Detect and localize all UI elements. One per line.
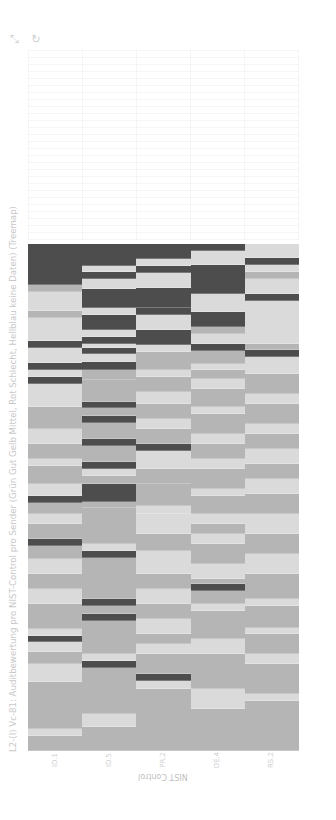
heatmap-cell[interactable] — [28, 559, 82, 574]
heatmap-cell[interactable] — [28, 429, 82, 444]
heatmap-cell[interactable] — [82, 661, 136, 668]
heatmap-cell[interactable] — [245, 404, 299, 424]
heatmap-cell[interactable] — [82, 606, 136, 614]
heatmap-cell[interactable] — [136, 345, 190, 352]
heatmap-cell[interactable] — [136, 273, 190, 288]
heatmap-cell[interactable] — [136, 469, 190, 484]
heatmap-cell[interactable] — [136, 370, 190, 377]
heatmap-cell[interactable] — [191, 709, 245, 751]
heatmap-cell[interactable] — [191, 294, 245, 312]
heatmap-cell[interactable] — [136, 451, 190, 469]
heatmap-cell[interactable] — [245, 350, 299, 357]
heatmap-cell[interactable] — [191, 564, 245, 579]
heatmap-cell[interactable] — [136, 352, 190, 370]
heatmap-cell[interactable] — [245, 244, 299, 258]
heatmap-cell[interactable] — [136, 514, 190, 534]
heatmap-cell[interactable] — [191, 584, 245, 591]
heatmap-cell[interactable] — [191, 251, 245, 265]
heatmap-cell[interactable] — [136, 404, 190, 419]
heatmap-cell[interactable] — [82, 654, 136, 661]
heatmap-cell[interactable] — [82, 621, 136, 654]
heatmap-cell[interactable] — [82, 558, 136, 599]
heatmap-cell[interactable] — [245, 294, 299, 301]
heatmap-cell[interactable] — [191, 591, 245, 604]
heatmap-cell[interactable] — [28, 459, 82, 466]
heatmap-cell[interactable] — [136, 681, 190, 689]
heatmap-cell[interactable] — [82, 279, 136, 289]
heatmap-plot-area[interactable] — [28, 244, 299, 751]
heatmap-cell[interactable] — [245, 634, 299, 654]
heatmap-cell[interactable] — [136, 689, 190, 751]
heatmap-cell[interactable] — [136, 259, 190, 266]
heatmap-cell[interactable] — [136, 506, 190, 514]
heatmap-cell[interactable] — [191, 334, 245, 344]
heatmap-cell[interactable] — [28, 604, 82, 629]
heatmap-cell[interactable] — [82, 272, 136, 279]
heatmap-cell[interactable] — [245, 424, 299, 434]
heatmap-cell[interactable] — [136, 266, 190, 273]
heatmap-cell[interactable] — [245, 599, 299, 606]
heatmap-cell[interactable] — [82, 446, 136, 462]
heatmap-cell[interactable] — [28, 484, 82, 496]
heatmap-cell[interactable] — [82, 476, 136, 484]
heatmap-cell[interactable] — [82, 289, 136, 308]
heatmap-cell[interactable] — [191, 414, 245, 434]
heatmap-cell[interactable] — [245, 701, 299, 751]
heatmap-cell[interactable] — [28, 407, 82, 429]
heatmap-cell[interactable] — [191, 604, 245, 611]
heatmap-cell[interactable] — [191, 351, 245, 364]
heatmap-cell[interactable] — [191, 514, 245, 524]
heatmap-cell[interactable] — [28, 341, 82, 348]
heatmap-cell[interactable] — [191, 327, 245, 334]
heatmap-cell[interactable] — [82, 508, 136, 544]
pan-icon[interactable]: ⤡ — [8, 34, 20, 46]
heatmap-cell[interactable] — [28, 311, 82, 318]
heatmap-cell[interactable] — [28, 574, 82, 589]
heatmap-cell[interactable] — [136, 589, 190, 604]
heatmap-cell[interactable] — [82, 330, 136, 337]
heatmap-cell[interactable] — [28, 466, 82, 484]
heatmap-cell[interactable] — [245, 301, 299, 344]
heatmap-cell[interactable] — [82, 370, 136, 380]
heatmap-cell[interactable] — [136, 619, 190, 634]
heatmap-cell[interactable] — [245, 514, 299, 534]
heatmap-cell[interactable] — [82, 551, 136, 558]
heatmap-cell[interactable] — [245, 357, 299, 374]
heatmap-cell[interactable] — [245, 374, 299, 394]
heatmap-cell[interactable] — [191, 544, 245, 564]
heatmap-cell[interactable] — [245, 574, 299, 599]
reset-icon[interactable]: ↻ — [30, 34, 42, 46]
heatmap-cell[interactable] — [191, 312, 245, 327]
heatmap-cell[interactable] — [82, 439, 136, 446]
heatmap-cell[interactable] — [245, 479, 299, 494]
heatmap-cell[interactable] — [191, 654, 245, 689]
heatmap-cell[interactable] — [82, 354, 136, 362]
heatmap-cell[interactable] — [28, 444, 82, 459]
heatmap-cell[interactable] — [82, 599, 136, 606]
heatmap-cell[interactable] — [136, 484, 190, 506]
heatmap-cell[interactable] — [245, 434, 299, 449]
heatmap-cell[interactable] — [245, 279, 299, 294]
heatmap-cell[interactable] — [191, 379, 245, 389]
heatmap-cell[interactable] — [82, 544, 136, 551]
heatmap-cell[interactable] — [136, 392, 190, 404]
heatmap-cell[interactable] — [28, 348, 82, 363]
heatmap-cell[interactable] — [28, 503, 82, 514]
heatmap-cell[interactable] — [136, 444, 190, 451]
heatmap-cell[interactable] — [191, 444, 245, 459]
heatmap-cell[interactable] — [28, 664, 82, 682]
heatmap-cell[interactable] — [28, 652, 82, 664]
heatmap-cell[interactable] — [136, 429, 190, 444]
heatmap-cell[interactable] — [28, 736, 82, 751]
heatmap-cell[interactable] — [82, 469, 136, 476]
heatmap-cell[interactable] — [28, 524, 82, 539]
heatmap-cell[interactable] — [82, 408, 136, 416]
heatmap-cell[interactable] — [28, 496, 82, 503]
heatmap-cell[interactable] — [245, 265, 299, 272]
heatmap-cell[interactable] — [28, 589, 82, 604]
heatmap-cell[interactable] — [191, 469, 245, 489]
heatmap-cell[interactable] — [191, 489, 245, 496]
heatmap-cell[interactable] — [136, 315, 190, 330]
heatmap-cell[interactable] — [245, 258, 299, 265]
heatmap-cell[interactable] — [28, 729, 82, 736]
